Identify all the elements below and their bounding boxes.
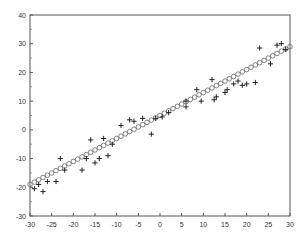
- fit-marker: [214, 83, 219, 88]
- plus-marker: [53, 179, 58, 184]
- fit-marker: [244, 67, 249, 72]
- plus-marker: [118, 123, 123, 128]
- fit-marker: [270, 53, 275, 58]
- plus-marker: [199, 99, 204, 104]
- plus-marker: [88, 137, 93, 142]
- plus-marker: [101, 136, 106, 141]
- fit-marker: [123, 132, 128, 137]
- fit-marker: [132, 127, 137, 132]
- fit-marker: [49, 171, 54, 176]
- x-tick-label: -5: [135, 221, 141, 228]
- fit-marker: [257, 60, 262, 65]
- x-tick-label: 20: [243, 221, 251, 228]
- x-tick-label: -10: [112, 221, 122, 228]
- fit-marker: [41, 175, 46, 180]
- plus-marker: [149, 132, 154, 137]
- fit-marker: [45, 173, 50, 178]
- fit-marker: [106, 141, 111, 146]
- fit-marker: [240, 70, 245, 75]
- fit-marker: [262, 58, 267, 63]
- x-tick-label: -30: [25, 221, 35, 228]
- y-tick-label: -30: [16, 213, 26, 220]
- x-axis: -30-25-20-15-10-5051015202530: [25, 213, 294, 228]
- fit-marker: [93, 148, 98, 153]
- fit-marker: [101, 143, 106, 148]
- fit-marker: [32, 180, 37, 185]
- fit-marker: [249, 65, 254, 70]
- y-tick-label: 0: [22, 126, 26, 133]
- fit-marker: [210, 86, 215, 91]
- x-tick-label: 10: [199, 221, 207, 228]
- fit-marker: [114, 136, 119, 141]
- fit-marker: [171, 106, 176, 111]
- plus-marker: [140, 116, 145, 121]
- fit-marker: [227, 76, 232, 81]
- fit-marker: [179, 102, 184, 107]
- fitted-line-markers: [28, 44, 293, 186]
- fit-marker: [275, 51, 280, 56]
- fit-marker: [140, 122, 145, 127]
- fit-marker: [58, 166, 63, 171]
- y-tick-label: 20: [18, 69, 26, 76]
- fit-marker: [253, 63, 258, 68]
- fit-marker: [218, 81, 223, 86]
- y-tick-label: 40: [18, 12, 26, 19]
- fit-marker: [197, 93, 202, 98]
- fit-marker: [149, 118, 154, 123]
- plus-marker: [253, 80, 258, 85]
- x-tick-label: 30: [286, 221, 294, 228]
- fit-marker: [201, 90, 206, 95]
- fit-marker: [231, 74, 236, 79]
- plus-marker: [257, 45, 262, 50]
- plus-marker: [45, 179, 50, 184]
- fit-marker: [80, 155, 85, 160]
- y-tick-label: -20: [16, 184, 26, 191]
- fit-marker: [266, 56, 271, 61]
- fit-marker: [279, 49, 284, 54]
- fit-marker: [223, 79, 228, 84]
- fit-marker: [192, 95, 197, 100]
- fit-marker: [75, 157, 80, 162]
- plus-marker: [209, 77, 214, 82]
- x-tick-label: -25: [47, 221, 57, 228]
- y-tick-label: 30: [18, 40, 26, 47]
- plus-marker: [268, 61, 273, 66]
- fit-marker: [162, 111, 167, 116]
- fit-marker: [236, 72, 241, 77]
- plus-marker: [105, 153, 110, 158]
- fit-marker: [71, 159, 76, 164]
- fit-marker: [67, 161, 72, 166]
- scatter-chart: -30-25-20-15-10-5051015202530 -30-20-100…: [0, 0, 306, 236]
- plus-marker: [166, 110, 171, 115]
- x-tick-label: -20: [68, 221, 78, 228]
- fit-marker: [175, 104, 180, 109]
- fit-marker: [136, 125, 141, 130]
- y-tick-label: 10: [18, 98, 26, 105]
- fit-marker: [119, 134, 124, 139]
- plus-marker: [97, 156, 102, 161]
- fit-marker: [188, 97, 193, 102]
- fit-marker: [145, 120, 150, 125]
- y-tick-label: -10: [16, 155, 26, 162]
- plus-marker: [183, 104, 188, 109]
- plot-frame: [30, 15, 290, 216]
- fit-marker: [36, 178, 41, 183]
- plus-marker: [79, 167, 84, 172]
- fit-marker: [127, 129, 132, 134]
- plus-marker: [58, 156, 63, 161]
- plus-marker: [235, 78, 240, 83]
- fit-marker: [97, 145, 102, 150]
- x-tick-label: 0: [158, 221, 162, 228]
- x-tick-label: 5: [180, 221, 184, 228]
- plus-marker: [194, 87, 199, 92]
- x-tick-label: -15: [90, 221, 100, 228]
- plus-marker: [92, 160, 97, 165]
- fit-marker: [88, 150, 93, 155]
- plus-marker: [231, 81, 236, 86]
- fit-marker: [205, 88, 210, 93]
- fit-marker: [54, 168, 59, 173]
- x-tick-label: 15: [221, 221, 229, 228]
- plus-marker: [40, 189, 45, 194]
- x-tick-label: 25: [264, 221, 272, 228]
